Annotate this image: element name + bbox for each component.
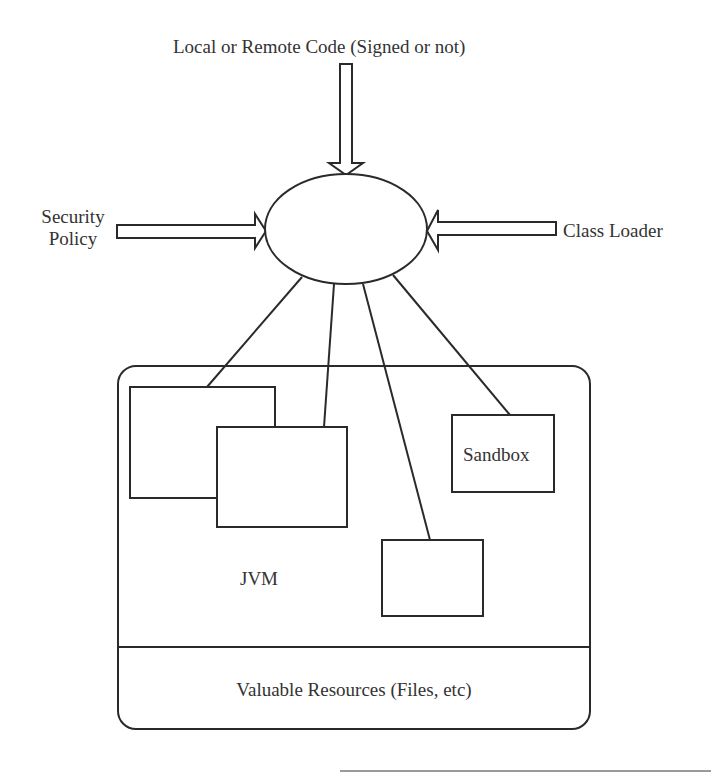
right-input-label: Class Loader — [563, 220, 663, 242]
left-input-arrow — [117, 214, 266, 248]
code-box-2 — [217, 427, 347, 527]
left-input-label-line1: Security — [28, 206, 118, 228]
code-box-3 — [382, 540, 483, 616]
left-input-label: Security Policy — [28, 206, 118, 250]
top-input-arrow — [329, 64, 363, 175]
top-input-label: Local or Remote Code (Signed or not) — [173, 36, 465, 58]
resources-label: Valuable Resources (Files, etc) — [118, 679, 590, 701]
central-node — [265, 174, 427, 284]
jvm-label: JVM — [240, 568, 278, 590]
sandbox-label: Sandbox — [463, 444, 530, 466]
left-input-label-line2: Policy — [28, 228, 118, 250]
right-input-arrow — [427, 210, 556, 250]
diagram-canvas — [0, 0, 711, 773]
